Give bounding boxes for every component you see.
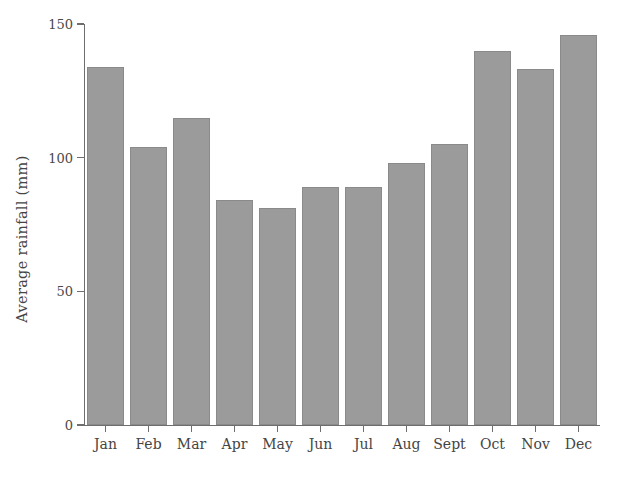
x-axis-tick-label-oct: Oct xyxy=(480,436,505,452)
x-axis-line xyxy=(84,425,600,426)
x-axis-tick-label-jan: Jan xyxy=(94,436,117,452)
bar-dec xyxy=(560,35,596,425)
x-axis-tick-mark xyxy=(578,425,579,432)
bar-feb xyxy=(130,147,166,425)
y-axis-tick-label: 0 xyxy=(65,418,73,433)
x-axis-tick-mark xyxy=(363,425,364,432)
x-axis-tick-mark xyxy=(191,425,192,432)
bar-aug xyxy=(388,163,424,425)
y-axis-tick-label: 150 xyxy=(48,17,73,32)
y-axis-tick-mark xyxy=(77,424,84,425)
bar-jun xyxy=(302,187,338,425)
x-axis-tick-mark xyxy=(449,425,450,432)
x-axis-tick-label-apr: Apr xyxy=(222,436,248,452)
bar-apr xyxy=(216,200,252,425)
x-axis-tick-mark xyxy=(535,425,536,432)
x-axis-tick-label-mar: Mar xyxy=(177,436,206,452)
x-axis-tick-label-may: May xyxy=(262,436,293,452)
y-axis-ticks: 050100150 xyxy=(0,0,84,478)
bar-nov xyxy=(517,69,553,425)
x-axis-tick-label-aug: Aug xyxy=(392,436,420,452)
bar-jul xyxy=(345,187,381,425)
bar-chart-figure: Average rainfall (mm) 050100150 JanFebMa… xyxy=(0,0,627,478)
bar-may xyxy=(259,208,295,425)
bar-jan xyxy=(87,67,123,425)
x-axis-tick-label-nov: Nov xyxy=(521,436,550,452)
y-axis-tick-mark xyxy=(77,157,84,158)
bar-mar xyxy=(173,118,209,425)
x-axis-tick-mark xyxy=(148,425,149,432)
x-axis-tick-mark xyxy=(406,425,407,432)
x-axis-tick-label-dec: Dec xyxy=(565,436,592,452)
x-axis-tick-mark xyxy=(320,425,321,432)
y-axis-tick-label: 50 xyxy=(56,284,73,299)
x-axis-tick-mark xyxy=(234,425,235,432)
x-axis-tick-mark xyxy=(277,425,278,432)
x-axis-tick-mark xyxy=(492,425,493,432)
bar-oct xyxy=(474,51,510,425)
x-axis-tick-label-feb: Feb xyxy=(135,436,161,452)
x-axis-tick-label-sept: Sept xyxy=(433,436,465,452)
y-axis-tick-mark xyxy=(77,23,84,24)
plot-area xyxy=(84,24,600,425)
x-axis-tick-label-jul: Jul xyxy=(354,436,373,452)
bar-sept xyxy=(431,144,467,425)
x-axis-tick-label-jun: Jun xyxy=(309,436,333,452)
x-axis-tick-mark xyxy=(105,425,106,432)
y-axis-tick-mark xyxy=(77,291,84,292)
y-axis-tick-label: 100 xyxy=(48,150,73,165)
